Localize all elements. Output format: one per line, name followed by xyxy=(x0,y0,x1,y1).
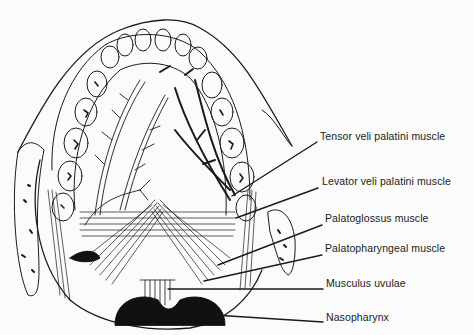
label-palatopharyngeal: Palatopharyngeal muscle xyxy=(325,242,445,254)
bone-right xyxy=(262,110,295,275)
label-tensor-veli-palatini: Tensor veli palatini muscle xyxy=(320,130,445,142)
leader-line-levator xyxy=(236,188,318,218)
label-palatoglossus: Palatoglossus muscle xyxy=(325,212,429,224)
bone-left xyxy=(14,143,44,296)
leader-line-nasopharynx xyxy=(214,315,323,322)
palatal-muscles xyxy=(48,190,256,300)
leader-line-tensor xyxy=(232,142,317,196)
anatomical-figure: Tensor veli palatini muscle Levator veli… xyxy=(0,0,474,335)
label-nasopharynx: Nasopharynx xyxy=(326,311,389,323)
nerve-branches-right xyxy=(160,66,235,200)
label-levator-veli-palatini: Levator veli palatini muscle xyxy=(322,175,451,187)
nerve-branches-left xyxy=(85,80,168,225)
label-musculus-uvulae: Musculus uvulae xyxy=(326,277,406,289)
leader-lines xyxy=(168,142,323,322)
leader-line-palatopharyngeal xyxy=(204,255,322,281)
nasopharynx-region xyxy=(115,297,225,325)
